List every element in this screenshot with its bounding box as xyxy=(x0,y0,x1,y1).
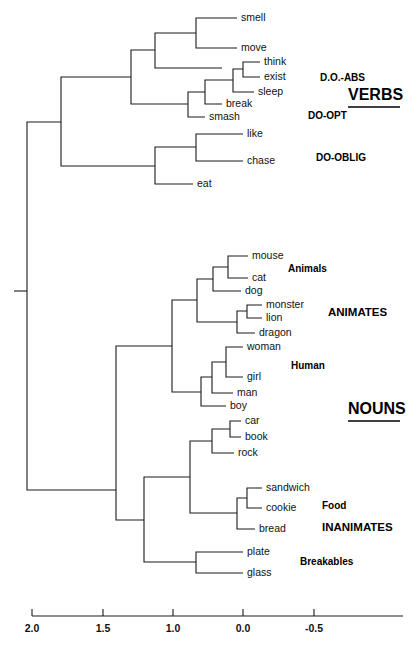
leaf-label-mouse: mouse xyxy=(252,249,284,261)
dendrogram-leaf: dog xyxy=(245,284,263,296)
leaf-label-cookie: cookie xyxy=(266,501,297,513)
dendrogram-leaf: move xyxy=(241,41,267,53)
leaf-label-man: man xyxy=(237,386,258,398)
leaf-label-cat: cat xyxy=(252,271,266,283)
leaf-label-break: break xyxy=(226,97,253,109)
dendrogram-leaf: girl xyxy=(247,370,261,382)
leaf-label-book: book xyxy=(245,430,269,442)
dendrogram-leaf: dragon xyxy=(259,326,292,338)
axis-tick-label: 1.5 xyxy=(96,622,111,634)
leaf-label-rock: rock xyxy=(238,446,259,458)
dendrogram-leaf: break xyxy=(226,97,253,109)
group-label-do-oblig: DO-OBLIG xyxy=(316,152,366,163)
dendrogram-leaf: smash xyxy=(209,110,240,122)
leaf-label-exist: exist xyxy=(264,70,286,82)
group-label-breakables: Breakables xyxy=(300,556,354,567)
group-label-nouns: NOUNS xyxy=(348,400,406,417)
group-label-animals: Animals xyxy=(288,263,327,274)
group-label-food: Food xyxy=(322,500,346,511)
leaf-label-move: move xyxy=(241,41,267,53)
dendrogram-leaf: cat xyxy=(252,271,266,283)
axis-tick-label: 1.0 xyxy=(166,622,181,634)
dendrogram-leaf: glass xyxy=(247,566,272,578)
leaf-label-bread: bread xyxy=(259,522,286,534)
leaf-label-glass: glass xyxy=(247,566,272,578)
group-label-inanimates: INANIMATES xyxy=(322,521,393,533)
axis-tick-label: 2.0 xyxy=(25,622,40,634)
leaf-label-dragon: dragon xyxy=(259,326,292,338)
dendrogram-leaf: rock xyxy=(238,446,259,458)
group-label-verbs: VERBS xyxy=(348,86,403,103)
dendrogram-leaf: think xyxy=(264,55,287,67)
dendrogram-leaf: mouse xyxy=(252,249,284,261)
dendrogram-leaf: sandwich xyxy=(266,481,310,493)
leaf-label-think: think xyxy=(264,55,287,67)
leaf-label-woman: woman xyxy=(246,340,281,352)
group-label-animates: ANIMATES xyxy=(328,306,388,318)
dendrogram-leaf: monster xyxy=(266,298,304,310)
leaf-label-sleep: sleep xyxy=(258,85,283,97)
dendrogram-leaf: woman xyxy=(246,340,281,352)
group-label-do-opt: DO-OPT xyxy=(308,110,347,121)
dendrogram-leaf: plate xyxy=(247,545,270,557)
leaf-label-sandwich: sandwich xyxy=(266,481,310,493)
dendrogram-leaf: chase xyxy=(247,154,275,166)
dendrogram-canvas: smellmovethinkexistsleepbreaksmashlikech… xyxy=(0,0,418,646)
dendrogram-leaf: exist xyxy=(264,70,286,82)
dendrogram-leaf: cookie xyxy=(266,501,297,513)
leaf-label-dog: dog xyxy=(245,284,263,296)
dendrogram-figure: smellmovethinkexistsleepbreaksmashlikech… xyxy=(0,0,418,646)
dendrogram-leaf: lion xyxy=(266,311,283,323)
dendrogram-leaf: book xyxy=(245,430,269,442)
group-label-human: Human xyxy=(291,360,325,371)
dendrogram-leaf: man xyxy=(237,386,258,398)
leaf-label-girl: girl xyxy=(247,370,261,382)
leaf-label-chase: chase xyxy=(247,154,275,166)
leaf-label-smell: smell xyxy=(241,11,266,23)
group-label-d-o-abs: D.O.-ABS xyxy=(320,72,365,83)
dendrogram-leaf: like xyxy=(247,127,263,139)
leaf-label-lion: lion xyxy=(266,311,283,323)
leaf-label-smash: smash xyxy=(209,110,240,122)
dendrogram-leaf: boy xyxy=(230,399,248,411)
axis-tick-label: 0.0 xyxy=(236,622,251,634)
leaf-label-monster: monster xyxy=(266,298,304,310)
dendrogram-leaf: eat xyxy=(197,177,212,189)
leaf-label-plate: plate xyxy=(247,545,270,557)
dendrogram-leaf: smell xyxy=(241,11,266,23)
dendrogram-leaf: sleep xyxy=(258,85,283,97)
dendrogram-leaf: bread xyxy=(259,522,286,534)
dendrogram-leaf: car xyxy=(245,414,260,426)
leaf-label-eat: eat xyxy=(197,177,212,189)
axis-tick-label: -0.5 xyxy=(305,622,323,634)
leaf-label-boy: boy xyxy=(230,399,248,411)
leaf-label-like: like xyxy=(247,127,263,139)
leaf-label-car: car xyxy=(245,414,260,426)
